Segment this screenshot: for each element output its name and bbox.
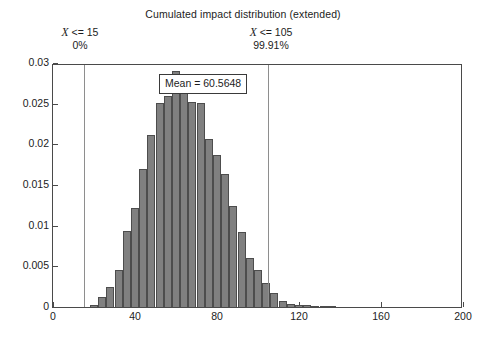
histogram-bar <box>229 206 237 307</box>
histogram-bar <box>205 139 213 307</box>
histogram-bar <box>106 287 114 307</box>
histogram-bar <box>115 270 123 307</box>
y-tick-mark <box>53 307 58 308</box>
annotation-right-value: 99.91% <box>250 39 293 52</box>
histogram-bar <box>311 306 319 307</box>
annotation-left-value: 0% <box>62 39 99 52</box>
y-tick-label: 0 <box>43 300 49 312</box>
histogram-bar <box>221 174 229 307</box>
histogram-bar <box>197 103 205 307</box>
plot-area: 00.0050.010.0150.020.0250.03 04080120160… <box>52 64 462 308</box>
y-tick-label: 0.01 <box>29 219 49 231</box>
histogram-bar <box>139 169 147 307</box>
variable-symbol: X <box>250 26 257 38</box>
y-tick-mark <box>53 63 58 64</box>
y-tick-label: 0.02 <box>29 137 49 149</box>
y-tick-label: 0.005 <box>23 259 49 271</box>
histogram-bar <box>147 135 155 307</box>
y-tick-label: 0.015 <box>23 178 49 190</box>
histogram-bar <box>254 270 262 307</box>
histogram-figure: Cumulated impact distribution (extended)… <box>0 0 486 339</box>
histogram-bar <box>213 155 221 307</box>
x-tick-label: 40 <box>129 310 141 322</box>
histogram-bar <box>180 85 188 307</box>
x-tick-label: 80 <box>211 310 223 322</box>
y-tick-label: 0.03 <box>29 56 49 68</box>
y-tick-label: 0.025 <box>23 97 49 109</box>
histogram-bar <box>98 297 106 307</box>
annotation-left-operator: <= 15 <box>72 26 99 38</box>
annotation-left-label: X <= 15 <box>62 26 99 39</box>
x-tick-label: 120 <box>290 310 308 322</box>
x-tick-label: 160 <box>372 310 390 322</box>
mean-textbox: Mean = 60.5648 <box>159 74 247 94</box>
marker-line-left <box>84 65 85 307</box>
histogram-bar <box>90 305 98 307</box>
histogram-bar <box>164 96 172 307</box>
histogram-bar <box>328 306 336 307</box>
histogram-bar <box>246 258 254 307</box>
histogram-bar <box>295 305 303 307</box>
histogram-bar <box>287 304 295 307</box>
annotation-right-label: X <= 105 <box>250 26 293 39</box>
histogram-bar <box>172 71 180 307</box>
chart-title: Cumulated impact distribution (extended) <box>0 8 486 20</box>
histogram-bar <box>123 231 131 307</box>
variable-symbol: X <box>62 26 69 38</box>
histogram-bar <box>238 232 246 307</box>
histogram-bar <box>270 293 278 307</box>
x-tick-label: 0 <box>50 310 56 322</box>
x-tick-label: 200 <box>454 310 472 322</box>
annotation-right-operator: <= 105 <box>260 26 293 38</box>
histogram-bar <box>320 306 328 307</box>
histogram-bar <box>188 102 196 307</box>
histogram-bar <box>156 103 164 307</box>
marker-line-right <box>268 65 269 307</box>
annotation-right-percentile: X <= 105 99.91% <box>250 26 293 52</box>
annotation-left-percentile: X <= 15 0% <box>62 26 99 52</box>
histogram-bar <box>279 301 287 308</box>
x-tick-mark <box>463 302 464 307</box>
histogram-bar <box>303 305 311 307</box>
histogram-bars <box>53 65 461 307</box>
histogram-bar <box>131 208 139 307</box>
